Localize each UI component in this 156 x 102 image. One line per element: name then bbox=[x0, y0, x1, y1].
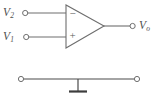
circuit-diagram: − + V2 V1 Vo bbox=[0, 0, 156, 102]
inverting-input-sign: − bbox=[69, 7, 75, 19]
opamp-subcircuit: − + bbox=[23, 5, 136, 48]
terminal-ground-right[interactable] bbox=[134, 76, 139, 81]
noninverting-input-sign: + bbox=[69, 29, 75, 41]
label-input-bottom: V1 bbox=[3, 31, 14, 43]
label-output: Vo bbox=[139, 20, 150, 32]
label-input-bottom-base: V bbox=[3, 30, 10, 42]
ground-subcircuit bbox=[18, 76, 139, 91]
label-input-top-subscript: 2 bbox=[10, 11, 14, 20]
label-input-top-base: V bbox=[3, 6, 10, 18]
label-input-top: V2 bbox=[3, 7, 14, 19]
label-output-subscript: o bbox=[146, 24, 150, 33]
terminal-input-bottom[interactable] bbox=[24, 34, 29, 39]
circuit-schematic-canvas: − + bbox=[0, 0, 156, 102]
terminal-ground-left[interactable] bbox=[18, 76, 23, 81]
label-input-bottom-subscript: 1 bbox=[10, 35, 14, 44]
terminal-input-top[interactable] bbox=[23, 10, 28, 15]
terminal-output[interactable] bbox=[130, 23, 135, 28]
label-output-base: V bbox=[139, 19, 146, 31]
